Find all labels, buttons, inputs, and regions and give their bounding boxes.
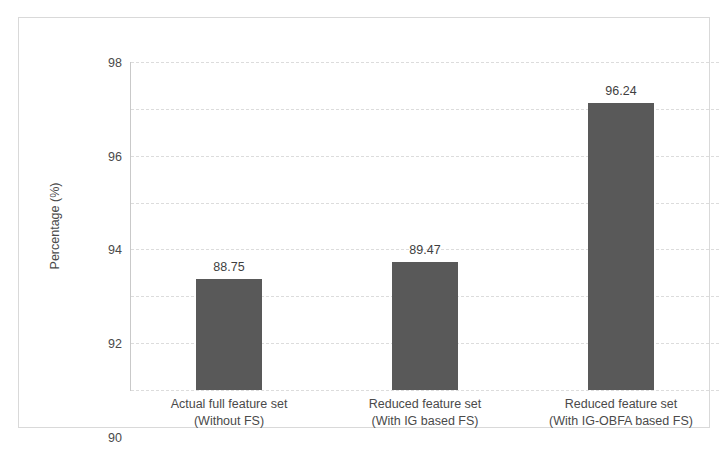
x-axis-category-line2: (With IG based FS) <box>327 413 523 430</box>
x-axis-category-line1: Reduced feature set <box>369 397 482 411</box>
bar-value-label: 96.24 <box>605 84 636 98</box>
y-axis-tick-label: 92 <box>108 337 122 351</box>
y-axis-tick-label: 94 <box>108 243 122 257</box>
bar-value-label: 88.75 <box>213 260 244 274</box>
x-axis-labels: Actual full feature set(Without FS)Reduc… <box>131 396 719 440</box>
x-axis-category-label: Actual full feature set(Without FS) <box>131 396 327 430</box>
x-axis-category-line1: Actual full feature set <box>171 397 288 411</box>
gridline: 84 <box>131 390 719 391</box>
bar: 96.24 <box>588 103 654 390</box>
y-axis-tick-label: 96 <box>108 150 122 164</box>
x-axis-category-line1: Reduced feature set <box>565 397 678 411</box>
chart-container: Percentage (%) 8486889092949698 88.7589.… <box>18 17 710 428</box>
plot-area: 8486889092949698 88.7589.4796.24 <box>131 62 719 390</box>
y-axis-tick-label: 98 <box>108 56 122 70</box>
y-axis-title-text: Percentage (%) <box>48 183 62 270</box>
bar: 89.47 <box>392 262 458 390</box>
x-axis-category-label: Reduced feature set(With IG-OBFA based F… <box>523 396 719 430</box>
gridline: 98 <box>131 62 719 63</box>
y-axis-title: Percentage (%) <box>45 62 65 390</box>
x-axis-category-line2: (Without FS) <box>131 413 327 430</box>
y-axis-tick-label: 90 <box>108 431 122 445</box>
bar: 88.75 <box>196 279 262 390</box>
bar-value-label: 89.47 <box>409 243 440 257</box>
x-axis-category-line2: (With IG-OBFA based FS) <box>523 413 719 430</box>
x-axis-category-label: Reduced feature set(With IG based FS) <box>327 396 523 430</box>
